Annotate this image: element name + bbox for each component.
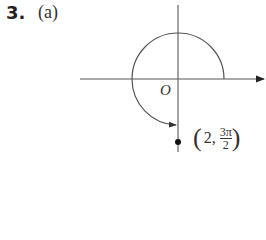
origin-label: O xyxy=(160,82,171,99)
plotted-point xyxy=(175,139,181,145)
point-theta: 3π 2 xyxy=(220,126,232,151)
point-label: ( 2, 3π 2 ) xyxy=(193,125,240,151)
theta-denominator: 2 xyxy=(223,139,229,151)
open-paren: ( xyxy=(193,125,202,151)
theta-numerator: 3π xyxy=(220,126,232,138)
point-r: 2, xyxy=(204,129,216,147)
close-paren: ) xyxy=(232,125,241,151)
